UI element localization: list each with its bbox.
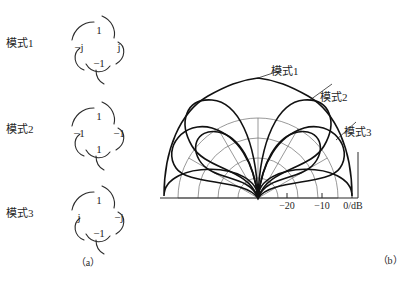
panel-b-radiation-pattern: 模式1 模式2 模式3 −20 −10 0/dB （b） — [160, 0, 389, 289]
mode-3-matrix: 模式3 1 j −j −1 — [0, 178, 160, 256]
tick-zero-db: 0/dB — [336, 200, 370, 211]
mode-1-matrix-body: 1 −j j −1 — [56, 8, 142, 86]
mode-1-cell-top: 1 — [84, 24, 114, 36]
mode-1-label: 模式1 — [6, 34, 34, 50]
mode-2-matrix-body: 1 −1 −1 1 — [56, 94, 142, 172]
mode-1-matrix: 模式1 1 −j j −1 — [0, 8, 160, 86]
mode-2-cell-top: 1 — [84, 110, 114, 122]
mode-2-cell-left: −1 — [64, 127, 94, 139]
mode-2-matrix: 模式2 1 −1 −1 1 — [0, 94, 160, 172]
mode-3-cell-right: −j — [104, 211, 134, 223]
curve-label-mode-2: 模式2 — [320, 88, 348, 104]
grid-spoke-30 — [258, 158, 327, 198]
panel-b-caption: （b） — [360, 252, 401, 267]
mode-3-cell-bottom: −1 — [84, 227, 114, 239]
mode-1-cell-left: −j — [64, 41, 94, 53]
tick-minus-10: −10 — [307, 200, 337, 211]
tick-minus-20: −20 — [272, 200, 302, 211]
axis-tick-marks — [287, 193, 352, 198]
curve-label-mode-1: 模式1 — [271, 62, 299, 78]
mode-2-cell-bottom: 1 — [84, 143, 114, 155]
mode-3-cell-left: j — [64, 211, 94, 223]
mode-3-matrix-body: 1 j −j −1 — [56, 178, 142, 256]
polar-plot — [160, 0, 389, 230]
mode-3-label: 模式3 — [6, 204, 34, 220]
panel-a-mode-matrices: 模式1 1 −j j −1 模式2 — [0, 0, 160, 289]
mode-3-cell-top: 1 — [84, 194, 114, 206]
grid-spoke-150 — [189, 158, 258, 198]
curve-label-mode-3: 模式3 — [344, 123, 372, 139]
mode-2-cell-right: −1 — [104, 127, 134, 139]
mode-1-cell-right: j — [104, 41, 134, 53]
mode-2-label: 模式2 — [6, 120, 34, 136]
mode-1-cell-bottom: −1 — [84, 57, 114, 69]
panel-a-caption: （a） — [58, 254, 118, 269]
